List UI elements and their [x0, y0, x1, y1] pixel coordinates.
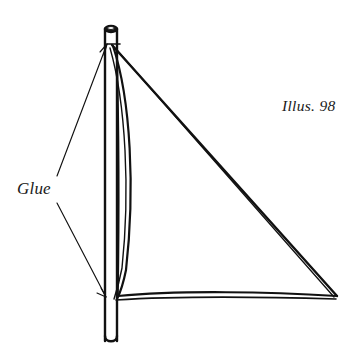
glue-label: Glue [17, 179, 51, 199]
sail-mast-line-drawing [0, 0, 361, 364]
page-background [0, 0, 361, 364]
illustration-number-label: Illus. 98 [282, 97, 336, 115]
mast-cap [104, 26, 117, 33]
illustration-figure: Glue Illus. 98 [0, 0, 361, 364]
